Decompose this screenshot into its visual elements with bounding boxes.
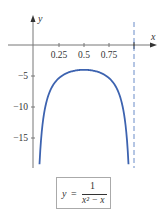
formula-denominator: x² − x [82,195,104,205]
formula-box: y = 1 x² − x [56,177,111,209]
x-tick-label: 0.75 [101,50,118,60]
y-axis-label: y [37,13,43,24]
formula-lhs: y [62,188,66,199]
function-curve [40,70,129,164]
formula-equals: = [71,188,77,199]
y-tick-label: −10 [13,102,28,112]
y-axis-arrow-icon [31,15,36,22]
y-tick-label: −15 [13,133,28,143]
x-tick-label: 0.25 [51,50,68,60]
x-tick-label: 0.5 [78,50,90,60]
x-axis-label: x [150,31,156,42]
formula-numerator: 1 [90,180,95,191]
y-tick-label: −5 [18,71,28,81]
x-axis-arrow-icon [150,43,157,48]
